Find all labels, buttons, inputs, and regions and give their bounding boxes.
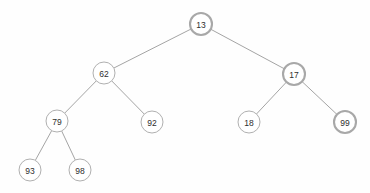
tree-edge-62-to-92	[112, 81, 145, 114]
tree-node-18[interactable]: 18	[238, 111, 260, 133]
tree-node-17[interactable]: 17	[283, 63, 305, 85]
node-label-62: 62	[99, 69, 109, 79]
tree-node-92[interactable]: 92	[141, 111, 163, 133]
tree-node-62[interactable]: 62	[93, 62, 115, 84]
tree-node-99[interactable]: 99	[334, 111, 356, 133]
binary-tree-diagram: 136217799218999398	[0, 0, 370, 193]
tree-edge-79-to-98	[62, 131, 76, 160]
tree-edge-17-to-18	[257, 82, 287, 114]
node-label-92: 92	[147, 118, 157, 128]
tree-node-93[interactable]: 93	[19, 159, 41, 181]
tree-edge-13-to-62	[114, 29, 191, 68]
tree-edge-62-to-79	[65, 81, 97, 113]
node-label-99: 99	[340, 118, 350, 128]
node-label-79: 79	[52, 117, 62, 127]
node-label-13: 13	[196, 20, 206, 30]
node-label-98: 98	[75, 166, 85, 176]
tree-edge-17-to-99	[302, 82, 337, 115]
tree-edge-79-to-93	[35, 131, 51, 161]
tree-node-13[interactable]: 13	[190, 13, 212, 35]
tree-nodes-group: 136217799218999398	[19, 13, 356, 181]
tree-edges-group	[35, 29, 337, 160]
tree-edge-13-to-17	[211, 29, 285, 69]
node-label-17: 17	[289, 70, 299, 80]
node-label-18: 18	[244, 118, 254, 128]
node-label-93: 93	[25, 166, 35, 176]
tree-canvas: 136217799218999398	[0, 0, 370, 193]
tree-node-79[interactable]: 79	[46, 110, 68, 132]
tree-node-98[interactable]: 98	[69, 159, 91, 181]
